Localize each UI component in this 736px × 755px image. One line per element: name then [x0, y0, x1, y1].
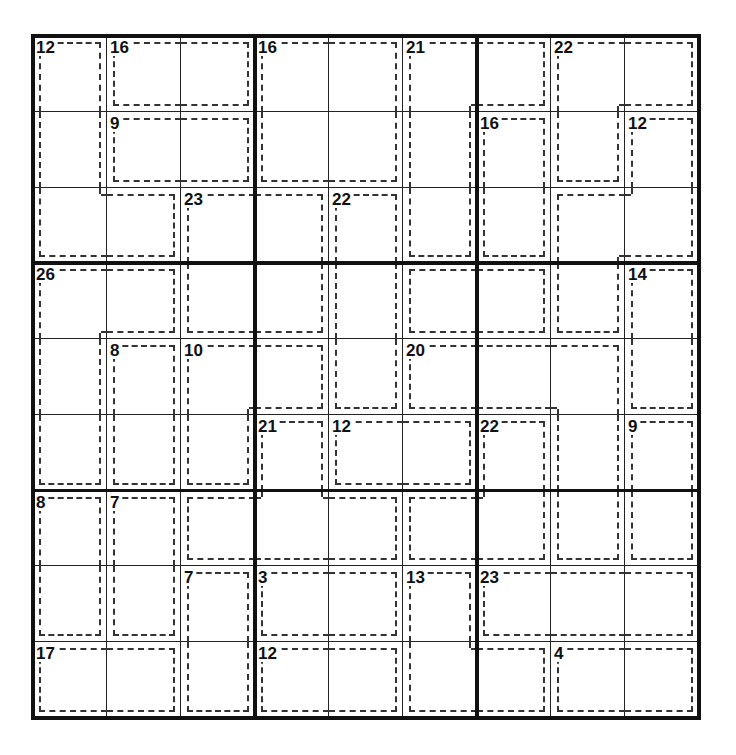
cage-sum: 21: [406, 39, 427, 56]
cell-r4c4[interactable]: [255, 263, 329, 339]
cage-sum: 23: [184, 191, 205, 208]
cage-sum: 12: [628, 115, 649, 132]
cell-r2c8[interactable]: [551, 112, 625, 188]
cell-r7c3[interactable]: [181, 491, 255, 567]
cell-r6c1[interactable]: [33, 415, 107, 491]
cage-sum: 4: [554, 645, 565, 662]
cell-r1c3[interactable]: [181, 36, 255, 112]
cell-r4c2[interactable]: [107, 263, 181, 339]
cage-sum: 12: [332, 418, 353, 435]
box-divider: [475, 36, 479, 718]
cage-sum: 8: [110, 342, 121, 359]
cage-sum: 10: [184, 342, 205, 359]
cell-r3c8[interactable]: [551, 188, 625, 264]
cage-sum: 17: [36, 645, 57, 662]
cage-sum: 21: [258, 418, 279, 435]
cage-sum: 9: [110, 115, 121, 132]
cell-r9c7[interactable]: [477, 642, 551, 718]
cage-sum: 16: [258, 39, 279, 56]
cage-sum: 22: [332, 191, 353, 208]
cage-sum: 22: [480, 418, 501, 435]
cell-r7c8[interactable]: [551, 491, 625, 567]
cell-r5c9[interactable]: [625, 339, 699, 415]
cell-r5c1[interactable]: [33, 339, 107, 415]
cell-r9c3[interactable]: [181, 642, 255, 718]
cage-sum: 12: [258, 645, 279, 662]
cell-r4c6[interactable]: [403, 263, 477, 339]
cell-r9c9[interactable]: [625, 642, 699, 718]
cell-r1c7[interactable]: [477, 36, 551, 112]
cell-r7c6[interactable]: [403, 491, 477, 567]
cage-sum: 13: [406, 569, 427, 586]
cell-r4c3[interactable]: [181, 263, 255, 339]
cage-sum: 16: [110, 39, 131, 56]
cell-r7c9[interactable]: [625, 491, 699, 567]
cell-r8c1[interactable]: [33, 566, 107, 642]
cage-sum: 20: [406, 342, 427, 359]
cell-r6c6[interactable]: [403, 415, 477, 491]
cage-sum: 7: [184, 569, 195, 586]
cell-r9c6[interactable]: [403, 642, 477, 718]
cell-r6c8[interactable]: [551, 415, 625, 491]
cage-sum: 26: [36, 266, 57, 283]
cell-r7c7[interactable]: [477, 491, 551, 567]
cell-r5c5[interactable]: [329, 339, 403, 415]
cell-r6c2[interactable]: [107, 415, 181, 491]
cell-r4c7[interactable]: [477, 263, 551, 339]
cell-r3c9[interactable]: [625, 188, 699, 264]
cell-r8c9[interactable]: [625, 566, 699, 642]
cell-r2c4[interactable]: [255, 112, 329, 188]
cell-r7c5[interactable]: [329, 491, 403, 567]
cell-r3c6[interactable]: [403, 188, 477, 264]
cell-r5c7[interactable]: [477, 339, 551, 415]
box-divider: [33, 489, 699, 493]
cell-r3c1[interactable]: [33, 188, 107, 264]
cell-r4c5[interactable]: [329, 263, 403, 339]
cage-sum: 12: [36, 39, 57, 56]
cage-sum: 22: [554, 39, 575, 56]
cell-r6c3[interactable]: [181, 415, 255, 491]
cell-r5c4[interactable]: [255, 339, 329, 415]
cell-r5c8[interactable]: [551, 339, 625, 415]
cell-r2c3[interactable]: [181, 112, 255, 188]
cell-r9c2[interactable]: [107, 642, 181, 718]
cage-sum: 7: [110, 494, 121, 511]
cell-r2c5[interactable]: [329, 112, 403, 188]
cell-r2c6[interactable]: [403, 112, 477, 188]
cell-r1c5[interactable]: [329, 36, 403, 112]
box-divider: [33, 261, 699, 265]
cell-r8c5[interactable]: [329, 566, 403, 642]
cage-sum: 23: [480, 569, 501, 586]
killer-sudoku-grid: 1216162122916122322261481020211222987731…: [33, 36, 699, 718]
cell-r1c9[interactable]: [625, 36, 699, 112]
cell-r4c8[interactable]: [551, 263, 625, 339]
cage-sum: 14: [628, 266, 649, 283]
cage-sum: 8: [36, 494, 47, 511]
cell-r3c4[interactable]: [255, 188, 329, 264]
cage-sum: 9: [628, 418, 639, 435]
cage-sum: 16: [480, 115, 501, 132]
cell-r2c1[interactable]: [33, 112, 107, 188]
box-divider: [253, 36, 257, 718]
cell-r3c7[interactable]: [477, 188, 551, 264]
cell-r8c8[interactable]: [551, 566, 625, 642]
cage-sum: 3: [258, 569, 269, 586]
cell-r9c5[interactable]: [329, 642, 403, 718]
cell-r8c2[interactable]: [107, 566, 181, 642]
cell-r7c4[interactable]: [255, 491, 329, 567]
cell-r3c2[interactable]: [107, 188, 181, 264]
